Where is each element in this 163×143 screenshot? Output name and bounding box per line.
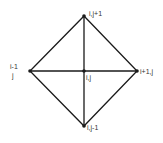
label-left-node-line2: j <box>12 72 14 79</box>
node-right <box>135 69 139 73</box>
label-right-node: i+1,j <box>140 68 153 75</box>
node-center <box>82 69 86 73</box>
label-center-node: i,j <box>86 74 91 81</box>
node-left <box>28 69 32 73</box>
node-top <box>82 14 86 18</box>
label-left-node-line1: i-1 <box>10 63 18 70</box>
node-bottom <box>82 124 86 128</box>
label-bottom-node: i,j-1 <box>87 124 98 131</box>
label-top-node: i,j+1 <box>89 10 102 17</box>
stencil-diagram <box>0 0 163 143</box>
